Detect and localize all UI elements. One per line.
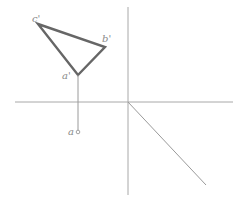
front-view-triangle bbox=[38, 24, 105, 75]
label-c-prime: c' bbox=[32, 13, 40, 24]
label-a: a bbox=[68, 126, 74, 137]
projection-diagram: c' b' a' a bbox=[0, 0, 243, 207]
label-b-prime: b' bbox=[102, 33, 111, 44]
point-a-marker bbox=[76, 130, 80, 134]
diagonal-45-line bbox=[128, 102, 206, 185]
label-a-prime: a' bbox=[62, 70, 71, 81]
